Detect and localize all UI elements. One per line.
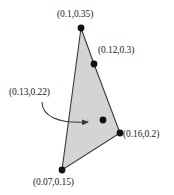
label-vertex-right: (0.16,0.2) (123, 129, 159, 140)
polygon-coordinate-diagram: (0.1,0.35) (0.12,0.3) (0.13,0.22) (0.16,… (0, 0, 174, 195)
label-interior-point: (0.13,0.22) (9, 87, 50, 98)
point-vertex-upper-right (91, 61, 98, 68)
label-vertex-top: (0.1,0.35) (57, 9, 93, 20)
label-vertex-bottom: (0.07,0.15) (33, 177, 74, 188)
point-interior (100, 117, 107, 124)
point-vertex-top (78, 25, 85, 32)
point-vertex-bottom (59, 167, 66, 174)
label-vertex-upper-right: (0.12,0.3) (98, 45, 134, 56)
